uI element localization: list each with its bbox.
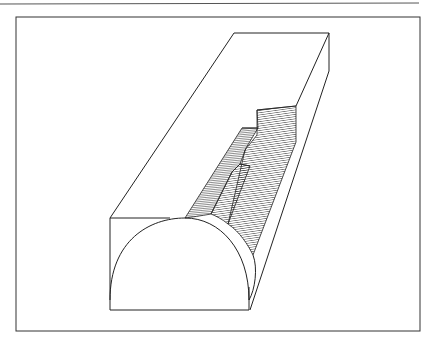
diagram-canvas — [0, 0, 433, 342]
top-rule — [0, 3, 419, 4]
hatched-surfaces — [185, 106, 296, 255]
channel-right-edge — [249, 255, 256, 300]
